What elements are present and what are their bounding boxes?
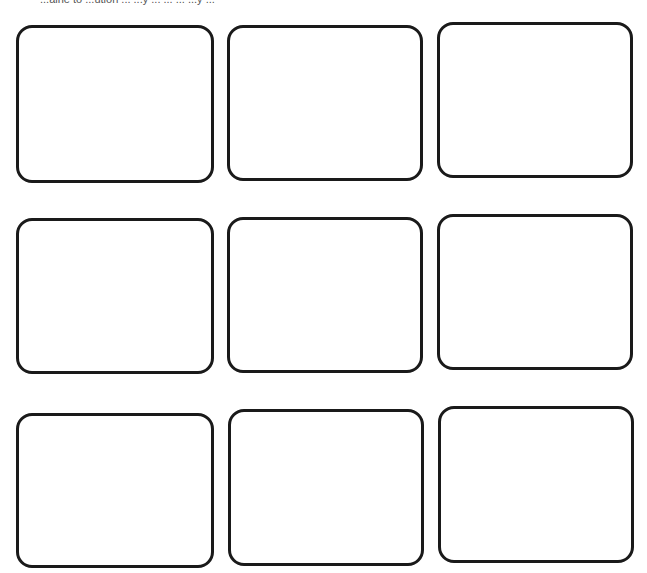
- card-r1-c3[interactable]: [437, 22, 633, 178]
- card-r3-c2[interactable]: [228, 409, 424, 566]
- card-r1-c1[interactable]: [16, 25, 214, 183]
- card-r2-c2[interactable]: [227, 217, 423, 373]
- card-r2-c1[interactable]: [16, 218, 214, 374]
- card-r3-c1[interactable]: [16, 413, 214, 568]
- card-r2-c3[interactable]: [437, 214, 633, 370]
- instruction-text: ...aine to ...ution ... ...y ... ... ...…: [40, 0, 400, 5]
- card-r3-c3[interactable]: [438, 406, 634, 563]
- card-r1-c2[interactable]: [227, 25, 423, 181]
